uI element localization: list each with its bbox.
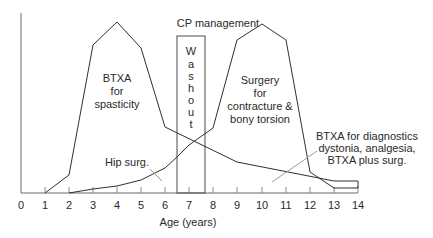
tick-label: 12 bbox=[304, 199, 316, 211]
tick-label: 6 bbox=[162, 199, 168, 211]
svg-text:u: u bbox=[188, 106, 194, 118]
tick-label: 13 bbox=[328, 199, 340, 211]
tick-label: 1 bbox=[42, 199, 48, 211]
x-axis-tick-labels: 0 1 2 3 4 5 6 7 8 9 10 11 12 13 14 bbox=[18, 199, 364, 211]
svg-text:a: a bbox=[188, 58, 195, 70]
svg-text:s: s bbox=[188, 70, 194, 82]
tick-label: 0 bbox=[18, 199, 24, 211]
svg-text:contracture &: contracture & bbox=[227, 100, 293, 112]
tick-label: 14 bbox=[352, 199, 364, 211]
cp-management-diagram: 0 1 2 3 4 5 6 7 8 9 10 11 12 13 14 Age (… bbox=[0, 0, 433, 238]
hip-surgery-label: Hip surg. bbox=[105, 156, 149, 168]
svg-text:bony torsion: bony torsion bbox=[230, 113, 290, 125]
surgery-label: Surgery for contracture & bony torsion bbox=[227, 74, 293, 125]
svg-text:h: h bbox=[188, 82, 194, 94]
btxa-spasticity-label: BTXA for spasticity bbox=[94, 72, 140, 110]
tick-label: 4 bbox=[114, 199, 120, 211]
btxa-diagnostics-label: BTXA for diagnostics dystonia, analgesia… bbox=[316, 130, 419, 166]
x-axis-label: Age (years) bbox=[160, 216, 217, 228]
btxa-diagnostics-pointer bbox=[272, 151, 317, 182]
tick-label: 5 bbox=[138, 199, 144, 211]
svg-text:W: W bbox=[186, 45, 197, 57]
tick-label: 9 bbox=[234, 199, 240, 211]
svg-text:dystonia, analgesia,: dystonia, analgesia, bbox=[318, 142, 415, 154]
svg-text:o: o bbox=[188, 94, 194, 106]
svg-text:Surgery: Surgery bbox=[241, 74, 280, 86]
tick-label: 3 bbox=[90, 199, 96, 211]
tick-label: 2 bbox=[66, 199, 72, 211]
svg-text:BTXA plus surg.: BTXA plus surg. bbox=[328, 154, 407, 166]
btxa-spasticity-curve bbox=[45, 22, 358, 193]
svg-text:for: for bbox=[254, 87, 267, 99]
tick-label: 10 bbox=[256, 199, 268, 211]
washout-label: W a s h o u t bbox=[186, 45, 197, 130]
svg-text:spasticity: spasticity bbox=[94, 98, 140, 110]
diagram-title: CP management bbox=[177, 17, 259, 29]
svg-text:BTXA for diagnostics: BTXA for diagnostics bbox=[316, 130, 419, 142]
svg-text:for: for bbox=[111, 85, 124, 97]
tick-label: 11 bbox=[280, 199, 291, 211]
svg-text:t: t bbox=[189, 118, 192, 130]
tick-label: 8 bbox=[210, 199, 216, 211]
tick-label: 7 bbox=[186, 199, 192, 211]
svg-text:BTXA: BTXA bbox=[103, 72, 132, 84]
